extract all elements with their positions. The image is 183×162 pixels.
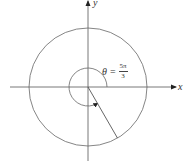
fraction-denominator: 3 — [121, 72, 125, 80]
equals-sign: = — [110, 66, 116, 77]
angle-label: θ = 5π 3 — [102, 63, 128, 80]
theta-symbol: θ — [102, 66, 107, 77]
y-axis-label: y — [93, 0, 97, 8]
diagram-canvas — [0, 0, 183, 162]
angle-fraction: 5π 3 — [119, 63, 128, 80]
terminal-ray — [88, 87, 118, 138]
x-axis-label: x — [178, 81, 182, 92]
unit-circle-diagram: x y θ = 5π 3 — [0, 0, 183, 162]
fraction-numerator: 5π — [119, 63, 128, 72]
